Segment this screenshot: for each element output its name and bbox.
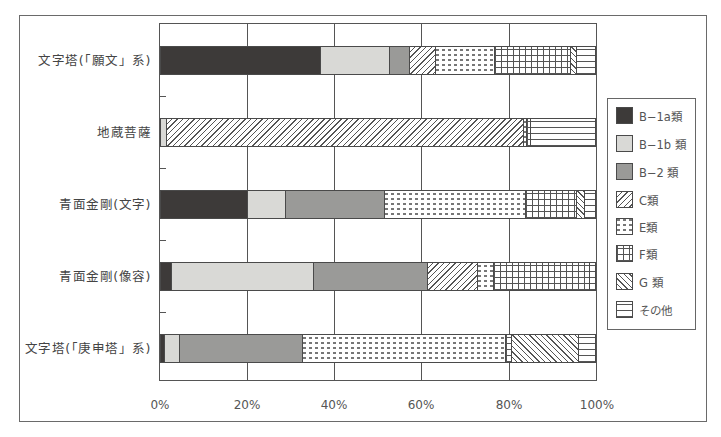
legend-label: E類 <box>639 219 657 235</box>
bar-segment <box>160 46 321 75</box>
legend-label: C類 <box>639 192 658 208</box>
bar-segment <box>160 262 172 291</box>
legend-item-e: E類 <box>616 217 657 236</box>
x-tick-label: 80% <box>496 398 523 412</box>
swatch-b2-icon <box>616 163 633 180</box>
bar-segment <box>478 262 494 291</box>
swatch-other-icon <box>616 301 633 318</box>
bar-segment <box>172 262 314 291</box>
bar-segment <box>512 334 579 363</box>
legend-item-b1b: B−1b 類 <box>616 134 686 153</box>
bar-segment <box>390 46 411 75</box>
plot-area <box>159 23 597 381</box>
category-label: 文字塔(「願文」系) <box>38 50 151 69</box>
bar-segment <box>531 118 596 147</box>
bar-segment <box>303 334 506 363</box>
bar-segment <box>167 118 524 147</box>
bar-segment <box>577 46 596 75</box>
bar-segment <box>248 190 286 219</box>
legend-label: B−1a類 <box>639 108 682 124</box>
x-tick-label: 100% <box>580 398 614 412</box>
bar-segment <box>579 334 596 363</box>
bar-segment <box>286 190 385 219</box>
y-tick <box>160 168 166 169</box>
bar-segment <box>526 190 577 219</box>
x-tick-label: 60% <box>408 398 435 412</box>
bar-segment <box>494 262 590 291</box>
category-label: 文字塔(「庚申塔」系) <box>25 338 151 357</box>
legend-item-b1a: B−1a類 <box>616 106 682 125</box>
bar-row-2 <box>160 190 596 219</box>
bar-row-0 <box>160 46 596 75</box>
y-tick <box>160 240 166 241</box>
legend-item-other: その他 <box>616 300 672 319</box>
x-tick-label: 40% <box>321 398 348 412</box>
bar-segment <box>165 334 180 363</box>
bar-segment <box>160 190 248 219</box>
category-label: 青面金剛(像容) <box>59 266 151 285</box>
bar-segment <box>385 190 526 219</box>
legend-label: B−1b 類 <box>639 136 686 152</box>
bar-segment <box>577 190 586 219</box>
legend-label: G 類 <box>639 274 663 290</box>
swatch-g-icon <box>616 273 633 290</box>
bar-row-3 <box>160 262 596 291</box>
swatch-f-icon <box>616 245 633 262</box>
legend-item-f: F類 <box>616 244 657 263</box>
legend: B−1a類 B−1b 類 B−2 類 C類 E類 F類 G 類 その他 <box>607 98 696 330</box>
bar-segment <box>314 262 428 291</box>
x-tick-label: 0% <box>150 398 169 412</box>
legend-item-g: G 類 <box>616 272 663 291</box>
bar-segment <box>160 118 167 147</box>
bar-segment <box>590 262 596 291</box>
swatch-b1a-icon <box>616 107 633 124</box>
x-tick-label: 20% <box>234 398 261 412</box>
legend-item-c: C類 <box>616 190 658 209</box>
bar-segment <box>436 46 495 75</box>
swatch-e-icon <box>616 218 633 235</box>
y-tick <box>160 312 166 313</box>
swatch-c-icon <box>616 191 633 208</box>
legend-label: F類 <box>639 246 657 262</box>
category-label: 地蔵菩薩 <box>97 122 151 141</box>
bar-segment <box>321 46 390 75</box>
legend-label: その他 <box>639 302 672 318</box>
category-label: 青面金剛(文字) <box>59 194 151 213</box>
bar-segment <box>585 190 595 219</box>
bar-segment <box>180 334 303 363</box>
bar-row-1 <box>160 118 596 147</box>
legend-item-b2: B−2 類 <box>616 162 679 181</box>
swatch-b1b-icon <box>616 135 633 152</box>
bar-segment <box>410 46 436 75</box>
y-tick <box>160 96 166 97</box>
bar-segment <box>495 46 571 75</box>
bar-row-4 <box>160 334 596 363</box>
bar-segment <box>428 262 478 291</box>
legend-label: B−2 類 <box>639 164 679 180</box>
